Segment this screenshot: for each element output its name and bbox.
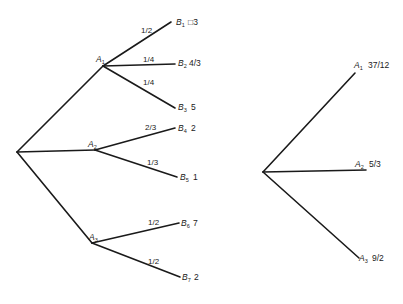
value-b5: 1	[193, 172, 198, 182]
edge-right-root-a2	[263, 170, 366, 172]
prob-b5: 1/3	[147, 158, 159, 167]
edge-root-a2	[17, 150, 95, 152]
left-tree: A1 A2 A3 1/2 1/4 1/4 2/3 1/3 1/2 1/2 B1 …	[17, 17, 201, 283]
edge-a1-b3	[103, 66, 175, 108]
prob-b6: 1/2	[148, 218, 160, 227]
prob-b7: 1/2	[148, 257, 160, 266]
right-node-a1-label: A1	[353, 60, 363, 71]
edge-a1-b2	[103, 64, 175, 66]
value-b6: 7	[193, 218, 198, 228]
edge-a3-b6	[92, 223, 179, 243]
prob-b1: 1/2	[141, 26, 153, 35]
decision-tree-diagram: A1 A2 A3 1/2 1/4 1/4 2/3 1/3 1/2 1/2 B1 …	[0, 0, 403, 304]
node-b2-label: B2	[178, 58, 187, 69]
node-a3-label: A3	[88, 232, 98, 243]
value-b4: 2	[191, 123, 196, 133]
edge-right-root-a1	[263, 73, 355, 172]
right-node-a2-label: A2	[354, 159, 364, 170]
prob-b4: 2/3	[145, 123, 157, 132]
edge-right-root-a3	[263, 172, 359, 258]
value-b7: 2	[194, 272, 199, 282]
value-b3: 5	[191, 102, 196, 112]
edge-a2-b5	[95, 150, 177, 177]
node-b5-label: B5	[180, 172, 189, 183]
edge-a1-b1	[103, 22, 171, 66]
right-value-a1: 37/12	[368, 60, 390, 70]
node-a2-label: A2	[87, 139, 97, 150]
prob-b2: 1/4	[143, 55, 155, 64]
node-b6-label: B6	[181, 218, 190, 229]
node-b4-label: B4	[178, 123, 187, 134]
value-b2: 4/3	[189, 58, 201, 68]
node-b1-label: B1	[176, 17, 185, 28]
right-value-a3: 9/2	[372, 253, 384, 263]
prob-b3: 1/4	[143, 78, 155, 87]
right-value-a2: 5/3	[369, 159, 381, 169]
node-b3-label: B3	[178, 102, 187, 113]
value-b1: □3	[188, 17, 198, 27]
node-a1-label: A1	[95, 54, 105, 65]
edge-a3-b7	[92, 243, 180, 277]
right-tree: A1 37/12 A2 5/3 A3 9/2	[263, 60, 390, 264]
edge-root-a3	[17, 152, 92, 243]
node-b7-label: B7	[182, 272, 191, 283]
edge-a2-b4	[95, 128, 175, 150]
right-node-a3-label: A3	[358, 253, 368, 264]
